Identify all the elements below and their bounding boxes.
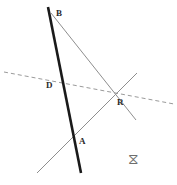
point-label-B: B	[56, 9, 62, 18]
dashed-line-through-D-and-R	[4, 72, 174, 104]
point-label-R: R	[117, 98, 124, 107]
point-label-A: A	[79, 137, 86, 146]
figure-canvas	[0, 0, 177, 185]
geometry-diagram: B D A R ⧖	[0, 0, 177, 185]
thick-line-B-to-A	[48, 7, 81, 173]
hourglass-mark-icon: ⧖	[128, 152, 139, 167]
point-label-D: D	[46, 81, 53, 90]
